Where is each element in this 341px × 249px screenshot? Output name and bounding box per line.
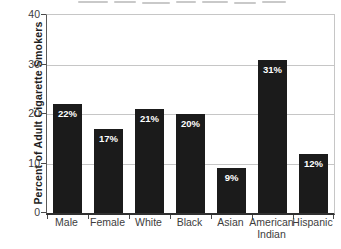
y-tick	[41, 14, 46, 15]
cropped-title-fragment	[78, 1, 108, 3]
category-label: Hispanic	[286, 217, 340, 229]
bar-value-label: 17%	[88, 133, 129, 144]
y-tick	[41, 212, 46, 213]
y-tick	[41, 163, 46, 164]
y-tick-label: 0	[2, 206, 40, 218]
cropped-title-fragment	[262, 1, 286, 3]
bar	[258, 60, 287, 213]
y-tick-label: 40	[2, 8, 40, 20]
bar-value-label: 21%	[129, 113, 170, 124]
cropped-title-fragment	[234, 2, 256, 4]
bar-value-label: 22%	[47, 108, 88, 119]
bar-chart: Percent of Adult Cigarette Smokers 22%17…	[0, 0, 341, 249]
cropped-title-fragment	[202, 1, 228, 3]
bar-value-label: 9%	[211, 172, 252, 183]
bar-value-label: 20%	[170, 118, 211, 129]
bar	[53, 104, 82, 213]
bar-value-label: 31%	[252, 64, 293, 75]
y-tick-label: 10	[2, 157, 40, 169]
y-tick-label: 30	[2, 58, 40, 70]
bar-value-label: 12%	[293, 158, 334, 169]
y-tick	[41, 64, 46, 65]
cropped-title-fragment	[114, 1, 136, 3]
cropped-title-fragment	[142, 2, 170, 4]
bar	[135, 109, 164, 213]
y-tick-label: 20	[2, 107, 40, 119]
y-tick	[41, 113, 46, 114]
plot-area: 22%17%21%20%9%31%12%	[46, 14, 335, 215]
cropped-title-fragment	[176, 1, 196, 3]
